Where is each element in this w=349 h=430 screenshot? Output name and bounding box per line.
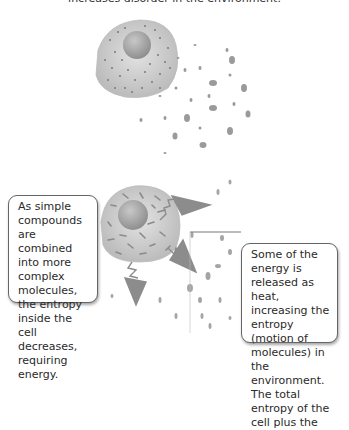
nucleus-icon xyxy=(123,31,151,59)
top-cell xyxy=(96,20,178,98)
callout-heat-release: Some of the energy is released as heat, … xyxy=(241,243,338,343)
nucleus-icon xyxy=(118,200,148,230)
callout-cell-entropy-decrease: As simple compounds are combined into mo… xyxy=(8,195,98,303)
bottom-cell xyxy=(101,186,180,262)
